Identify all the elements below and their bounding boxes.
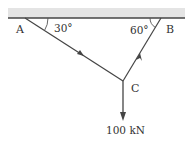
angle-arc-B [150,18,156,28]
truss-diagram: A B C 30° 60° 100 kN [0,0,192,145]
label-C: C [131,82,139,95]
angle-arc-A [45,18,49,31]
load-label: 100 kN [106,124,145,136]
angle-label-A: 30° [54,22,73,34]
arrow-down-icon [120,112,126,121]
arrow-AC-icon [77,50,84,56]
angle-label-B: 60° [130,24,149,36]
ceiling-support [8,8,185,18]
member-AC [25,18,123,81]
label-A: A [15,23,25,36]
label-B: B [166,23,174,36]
